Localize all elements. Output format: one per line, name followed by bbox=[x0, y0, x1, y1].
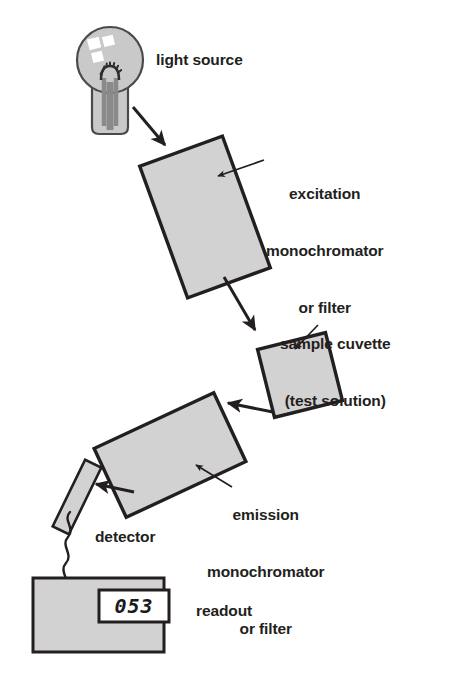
label-readout: readout bbox=[196, 601, 252, 620]
readout-value-display: 053 bbox=[101, 592, 167, 620]
label-detector: detector bbox=[95, 527, 155, 546]
label-emission-monochromator: emission monochromator or filter bbox=[207, 467, 325, 676]
label-excitation-line2: monochromator bbox=[266, 241, 384, 260]
arrow-cuvette-to-emission bbox=[228, 403, 273, 412]
arrow-source-to-excitation bbox=[133, 107, 165, 145]
arrow-excitation-to-cuvette bbox=[224, 277, 255, 330]
label-light-source: light source bbox=[156, 50, 243, 69]
label-emission-line1: emission bbox=[207, 505, 325, 524]
label-sample-cuvette: sample cuvette (test solution) bbox=[280, 296, 391, 448]
excitation-monochromator-box bbox=[140, 136, 271, 298]
label-emission-line3: or filter bbox=[207, 619, 325, 638]
detector-slab bbox=[53, 460, 102, 534]
label-cuvette-line1: sample cuvette bbox=[280, 334, 391, 353]
light-source-bulb bbox=[77, 27, 143, 134]
diagram-page: light source excitation monochromator or… bbox=[0, 0, 466, 678]
label-emission-line2: monochromator bbox=[207, 562, 325, 581]
label-cuvette-line2: (test solution) bbox=[280, 391, 391, 410]
label-excitation-line1: excitation bbox=[266, 184, 384, 203]
